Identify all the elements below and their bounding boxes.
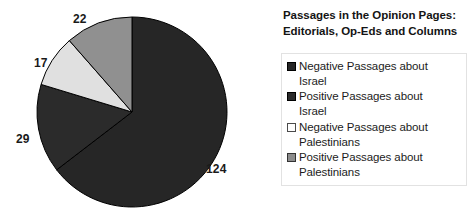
legend-panel: Passages in the Opinion Pages: Editorial… [281, 8, 467, 186]
legend-swatch-icon-negative-palestinians [287, 123, 296, 132]
pie-slice-group [37, 17, 227, 207]
legend-swatch-icon-negative-israel [287, 62, 296, 71]
pie-data-label-negative-israel: 124 [206, 163, 227, 175]
pie-svg [0, 0, 262, 221]
legend-label-positive-israel: Positive Passages about Israel [299, 89, 423, 118]
legend-item-positive-israel[interactable]: Positive Passages about Israel [287, 89, 462, 118]
pie-plot-area: 124 29 17 22 [0, 0, 262, 221]
legend-label-negative-israel: Negative Passages about Israel [299, 59, 428, 88]
pie-data-label-positive-israel: 29 [16, 133, 30, 145]
legend-swatch-icon-positive-palestinians [287, 153, 296, 162]
chart-title-line-2: Editorials, Op-Eds and Columns [283, 24, 467, 40]
legend-item-positive-palestinians[interactable]: Positive Passages about Palestinians [287, 150, 462, 179]
pie-chart-figure: 124 29 17 22 Passages in the Opinion Pag… [0, 0, 471, 221]
chart-title-line-1: Passages in the Opinion Pages: [283, 8, 467, 24]
legend-label-negative-palestinians: Negative Passages about Palestinians [299, 120, 428, 149]
legend-swatch-icon-positive-israel [287, 92, 296, 101]
legend-item-negative-israel[interactable]: Negative Passages about Israel [287, 59, 462, 88]
chart-title: Passages in the Opinion Pages: Editorial… [283, 8, 467, 39]
legend-box: Negative Passages about Israel Positive … [281, 53, 467, 186]
legend-item-negative-palestinians[interactable]: Negative Passages about Palestinians [287, 120, 462, 149]
legend-label-positive-palestinians: Positive Passages about Palestinians [299, 150, 423, 179]
pie-data-label-positive-palestinians: 22 [73, 13, 87, 25]
pie-data-label-negative-palestinians: 17 [34, 57, 48, 69]
